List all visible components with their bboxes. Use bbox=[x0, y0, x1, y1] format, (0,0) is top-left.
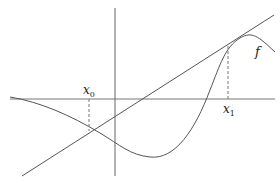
function-label: f bbox=[255, 45, 260, 58]
tangent-line bbox=[22, 15, 274, 176]
x0-label-sub: 0 bbox=[90, 90, 95, 99]
x1-label-base: x bbox=[223, 102, 230, 116]
newton-diagram bbox=[0, 0, 280, 183]
x1-label-sub: 1 bbox=[230, 109, 235, 118]
function-curve bbox=[10, 35, 275, 157]
x1-label: x1 bbox=[223, 103, 235, 118]
x0-label: x0 bbox=[83, 84, 95, 99]
x0-label-base: x bbox=[83, 83, 90, 97]
